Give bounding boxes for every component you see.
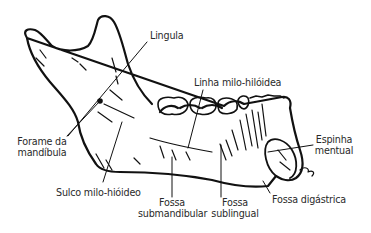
label-fossa-sublingual: Fossa sublingual [210,197,260,219]
mandible-outline [25,16,302,187]
leader-forame [67,101,100,136]
label-forame-line2: mandíbula [14,147,70,158]
label-espinha-line2: mentual [312,145,356,156]
label-fossa-sub-line1: Fossa [138,197,206,208]
label-fossa-subl-line2: sublingual [210,208,260,219]
label-fossa-submandibular: Fossa submandibular [138,197,206,219]
label-fossa-subl-line1: Fossa [210,197,260,208]
label-sulco-milo-hioideo: Sulco milo-hióideo [56,187,141,198]
label-linha-milo-hioidea: Linha milo-hilóidea [194,77,281,88]
label-espinha-mentual: Espinha mentual [312,134,356,156]
mandible-diagram: Lingula Linha milo-hilóidea Forame da ma… [0,0,371,233]
leader-linha-milo [188,90,203,148]
label-fossa-sub-line2: submandibular [138,208,206,219]
label-lingula: Lingula [150,30,183,41]
label-forame-mandibula: Forame da mandíbula [14,136,70,158]
label-espinha-line1: Espinha [312,134,356,145]
label-fossa-digastrica: Fossa digástrica [272,194,346,205]
chin-outline [265,139,296,178]
leader-espinha [268,145,313,152]
label-forame-line1: Forame da [14,136,70,147]
